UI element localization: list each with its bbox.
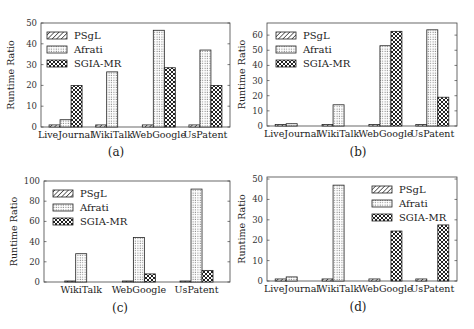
x-tick-label: WebGoogle (358, 283, 413, 294)
bar-afrati-wikitalk (333, 105, 344, 126)
bar-psgl-wikitalk (322, 279, 333, 281)
legend-label: SGIA-MR (74, 58, 122, 69)
bar-psgl-uspatent (416, 124, 427, 126)
bar-afrati-wikitalk (333, 185, 344, 281)
legend-label: PSgL (399, 184, 426, 195)
panel-caption: (b) (349, 145, 366, 159)
legend-swatch-afrati (47, 46, 67, 53)
y-tick-label: 40 (252, 194, 263, 204)
legend-label: Afrati (79, 202, 109, 213)
legend-swatch-psgl (276, 32, 296, 39)
legend-swatch-psgl (47, 32, 67, 39)
bar-psgl-webgoogle (142, 125, 153, 127)
y-axis-label: Runtime Ratio (236, 39, 247, 109)
bar-sgia-mr-webgoogle (164, 68, 175, 127)
x-tick-label: LiveJournal (264, 283, 319, 294)
y-tick-label: 60 (29, 216, 40, 226)
bar-sgia-mr-webgoogle (144, 274, 155, 282)
bar-afrati-uspatent (427, 30, 438, 126)
x-tick-label: WikiTalk (318, 283, 360, 294)
bar-afrati-webgoogle (380, 46, 391, 126)
legend-swatch-sgia-mr (276, 60, 296, 67)
x-tick-label: WikiTalk (91, 129, 133, 140)
figure: 01020304050Runtime RatioLiveJournalWikiT… (0, 0, 474, 329)
panel-caption: (a) (108, 145, 125, 159)
y-tick-label: 50 (26, 18, 37, 28)
y-tick-label: 0 (258, 121, 263, 131)
bar-psgl-uspatent (180, 281, 191, 282)
bar-psgl-livejournal (275, 124, 286, 126)
legend-label: Afrati (398, 198, 428, 209)
y-tick-label: 20 (29, 257, 40, 267)
y-tick-label: 0 (258, 276, 263, 286)
y-tick-label: 50 (252, 174, 263, 184)
x-tick-label: UsPatent (183, 129, 227, 140)
bar-sgia-mr-uspatent (438, 97, 449, 126)
legend-swatch-sgia-mr (53, 218, 73, 225)
y-tick-label: 50 (252, 45, 263, 55)
y-axis-label: Runtime Ratio (236, 194, 247, 264)
bar-psgl-livejournal (275, 279, 286, 281)
panel-a: 01020304050Runtime RatioLiveJournalWikiT… (5, 18, 230, 159)
legend: PSgLAfratiSGIA-MR (47, 30, 122, 69)
legend-label: Afrati (302, 44, 332, 55)
legend-swatch-afrati (276, 46, 296, 53)
legend-swatch-afrati (372, 200, 392, 207)
legend: PSgLAfratiSGIA-MR (53, 188, 128, 227)
legend-swatch-psgl (372, 186, 392, 193)
legend-swatch-psgl (53, 190, 73, 197)
bar-psgl-webgoogle (122, 281, 133, 282)
x-tick-label: WebGoogle (112, 284, 167, 295)
bar-psgl-livejournal (49, 125, 60, 127)
y-tick-label: 0 (32, 122, 37, 132)
y-tick-label: 10 (252, 106, 263, 116)
bar-psgl-webgoogle (369, 124, 380, 126)
bar-psgl-uspatent (416, 279, 427, 281)
bar-psgl-webgoogle (369, 279, 380, 281)
y-tick-label: 10 (252, 256, 263, 266)
y-tick-label: 20 (252, 91, 263, 101)
bar-afrati-livejournal (286, 277, 297, 281)
y-tick-label: 100 (24, 176, 40, 186)
y-tick-label: 60 (252, 30, 263, 40)
panel-caption: (d) (349, 300, 366, 314)
legend-label: SGIA-MR (80, 216, 128, 227)
legend-label: PSgL (80, 188, 107, 199)
bar-sgia-mr-uspatent (438, 225, 449, 281)
y-axis-label: Runtime Ratio (5, 40, 16, 110)
bar-sgia-mr-uspatent (211, 85, 222, 127)
bar-afrati-livejournal (60, 120, 71, 127)
legend: PSgLAfratiSGIA-MR (372, 184, 447, 223)
x-tick-label: WikiTalk (318, 128, 360, 139)
x-tick-label: WebGoogle (358, 128, 413, 139)
legend: PSgLAfratiSGIA-MR (276, 30, 351, 69)
x-tick-label: UsPatent (410, 128, 454, 139)
panel-c: 020406080100Runtime RatioWikiTalkWebGoog… (8, 176, 230, 315)
bar-sgia-mr-webgoogle (391, 31, 402, 126)
y-tick-label: 0 (35, 277, 40, 287)
y-axis-label: Runtime Ratio (8, 196, 19, 266)
y-tick-label: 10 (26, 101, 37, 111)
bar-afrati-wikitalk (107, 72, 118, 127)
bar-sgia-mr-uspatent (202, 270, 213, 282)
bar-psgl-uspatent (189, 125, 200, 127)
bar-afrati-uspatent (191, 189, 202, 282)
bar-afrati-wikitalk (76, 254, 87, 282)
bar-afrati-livejournal (286, 124, 297, 126)
y-tick-label: 30 (26, 60, 37, 70)
bar-psgl-wikitalk (322, 124, 333, 126)
legend-label: SGIA-MR (303, 58, 351, 69)
legend-label: SGIA-MR (399, 212, 447, 223)
y-tick-label: 30 (252, 76, 263, 86)
panel-caption: (c) (112, 301, 128, 315)
panel-b: 0102030405060Runtime RatioLiveJournalWik… (236, 23, 457, 159)
y-tick-label: 20 (252, 235, 263, 245)
x-tick-label: UsPatent (410, 283, 454, 294)
plot-frame (267, 177, 457, 281)
panel-d: 01020304050Runtime RatioLiveJournalWikiT… (236, 174, 457, 314)
x-tick-label: WebGoogle (132, 129, 187, 140)
bar-afrati-webgoogle (153, 30, 164, 127)
legend-swatch-sgia-mr (372, 214, 392, 221)
legend-swatch-sgia-mr (47, 60, 67, 67)
x-tick-label: UsPatent (175, 284, 219, 295)
